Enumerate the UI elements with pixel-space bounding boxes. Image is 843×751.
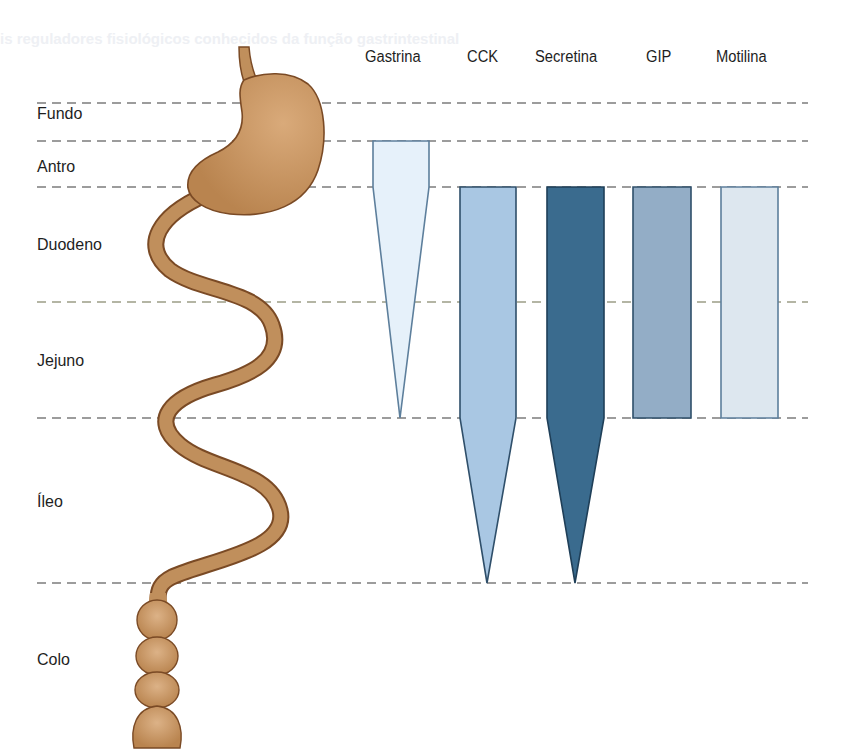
colon xyxy=(133,593,181,748)
colon-segment-2 xyxy=(136,637,178,675)
hormone-label-gastrina: Gastrina xyxy=(365,49,421,65)
gi-hormone-distribution-figure: is reguladores fisiológicos conhecidos d… xyxy=(0,0,843,751)
gip-distribution-shape xyxy=(633,187,691,418)
secretina-distribution-shape xyxy=(547,187,604,583)
small-intestine xyxy=(156,195,281,600)
motilina-distribution-shape xyxy=(721,187,778,418)
hormone-label-secretina: Secretina xyxy=(535,49,597,65)
region-label-colo: Colo xyxy=(37,652,70,668)
region-label-fundo: Fundo xyxy=(37,106,82,122)
stomach xyxy=(188,74,324,215)
hormone-label-cck: CCK xyxy=(467,49,498,65)
diagram-canvas xyxy=(0,0,843,751)
region-label-antro: Antro xyxy=(37,159,75,175)
hormone-label-gip: GIP xyxy=(646,49,671,65)
cck-distribution-shape xyxy=(460,187,516,583)
colon-segment-3 xyxy=(135,672,179,708)
hormone-shapes xyxy=(373,141,778,583)
hormone-label-motilina: Motilina xyxy=(716,49,767,65)
colon-segment-1 xyxy=(137,600,177,640)
region-label-jejuno: Jejuno xyxy=(37,353,84,369)
region-label-duodeno: Duodeno xyxy=(37,237,102,253)
colon-segment-4 xyxy=(133,706,181,748)
gastrina-distribution-shape xyxy=(373,141,429,418)
gi-tract-illustration xyxy=(133,47,324,748)
region-label-ileo: Íleo xyxy=(37,494,63,510)
